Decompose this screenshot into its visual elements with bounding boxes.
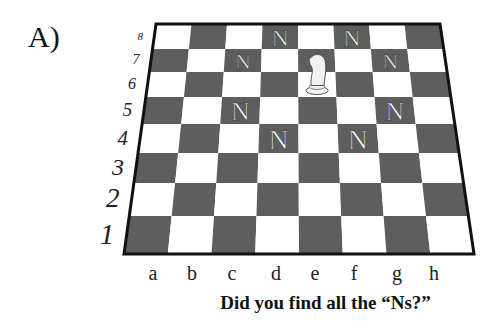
square-f1 (341, 216, 386, 254)
square-b5 (181, 97, 222, 124)
n-marker-f8: N (343, 25, 360, 51)
square-d2 (256, 183, 298, 216)
square-e5 (298, 97, 337, 124)
square-h4 (416, 124, 459, 153)
square-b2 (172, 183, 217, 216)
rank-label-8: 8 (138, 30, 144, 42)
square-h5 (413, 97, 455, 124)
square-b1 (168, 216, 214, 254)
rank-label-6: 6 (128, 75, 136, 93)
square-f3 (339, 153, 381, 183)
square-c6 (222, 72, 261, 97)
file-label-b: b (187, 262, 197, 285)
square-b4 (178, 124, 220, 153)
file-label-c: c (228, 262, 237, 285)
square-f2 (340, 183, 384, 216)
square-g8 (369, 24, 407, 49)
square-g4 (377, 124, 419, 153)
square-e4 (298, 124, 338, 153)
n-marker-c5: N (231, 97, 250, 126)
square-a2 (129, 183, 175, 216)
rank-label-5: 5 (123, 99, 133, 121)
n-marker-g5: N (385, 97, 404, 126)
square-d7 (261, 49, 298, 72)
square-e3 (299, 153, 340, 183)
square-f6 (335, 72, 374, 97)
square-a6 (146, 72, 187, 97)
file-label-f: f (351, 262, 358, 285)
n-marker-g7: N (382, 49, 398, 74)
rank-label-3: 3 (112, 154, 124, 181)
square-b7 (187, 49, 226, 72)
square-c8 (225, 24, 262, 49)
square-f5 (336, 97, 376, 124)
board-squares (124, 24, 474, 254)
square-h2 (422, 183, 468, 216)
n-marker-f4: N (348, 124, 368, 155)
square-h8 (405, 24, 444, 49)
file-label-h: h (429, 262, 439, 285)
square-f7 (335, 49, 373, 72)
square-e8 (298, 24, 335, 49)
caption: Did you find all the “Ns?” (0, 292, 501, 314)
square-d6 (260, 72, 298, 97)
square-b3 (175, 153, 218, 183)
square-b8 (189, 24, 227, 49)
rank-label-2: 2 (106, 183, 120, 214)
square-e1 (299, 216, 343, 254)
square-g6 (373, 72, 413, 97)
file-label-d: d (271, 262, 281, 285)
file-label-g: g (392, 262, 402, 285)
square-h1 (426, 216, 474, 254)
rank-label-4: 4 (118, 126, 129, 151)
file-label-e: e (311, 262, 320, 285)
file-label-a: a (149, 262, 158, 285)
square-d3 (257, 153, 298, 183)
n-marker-d4: N (269, 124, 289, 155)
n-marker-d8: N (271, 25, 288, 51)
square-h6 (410, 72, 451, 97)
square-a1 (124, 216, 172, 254)
n-marker-c7: N (235, 49, 251, 74)
square-g3 (379, 153, 422, 183)
square-c2 (214, 183, 257, 216)
square-a8 (153, 24, 192, 49)
square-c4 (218, 124, 259, 153)
square-g1 (384, 216, 431, 254)
square-d1 (255, 216, 299, 254)
square-d5 (259, 97, 298, 124)
square-e2 (299, 183, 342, 216)
square-c3 (216, 153, 258, 183)
rank-label-1: 1 (100, 218, 115, 251)
square-a7 (149, 49, 189, 72)
square-a5 (142, 97, 184, 124)
square-a4 (138, 124, 181, 153)
square-g2 (381, 183, 426, 216)
square-h3 (419, 153, 464, 183)
square-a3 (134, 153, 178, 183)
square-h7 (407, 49, 447, 72)
square-c1 (212, 216, 257, 254)
rank-label-7: 7 (133, 52, 140, 68)
chessboard: NNNNNNNN (0, 0, 501, 324)
square-b6 (184, 72, 224, 97)
